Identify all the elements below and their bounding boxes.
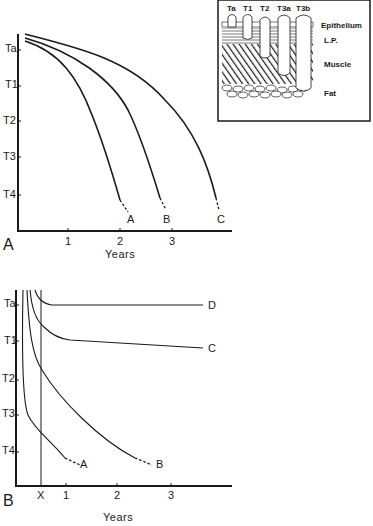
panel-a-y-tick-t1: T1 (5, 78, 18, 90)
inset-stage-t3a: T3a (277, 4, 291, 13)
tumor-t1 (243, 15, 252, 40)
figure: Ta T1 T2 T3 T4 1 2 3 Years A A B C (0, 0, 373, 526)
tumor-ta (228, 15, 236, 28)
panel-b-y-tick-t4: T4 (2, 444, 15, 456)
tumor-t3b (296, 15, 311, 91)
panel-b-label: B (3, 492, 14, 509)
inset-layer-muscle: Muscle (324, 60, 352, 69)
inset-stage-t2: T2 (260, 4, 270, 13)
inset-layer-fat: Fat (324, 89, 336, 98)
panel-a-curve-a (25, 41, 120, 200)
panel-b-curve-label-c: C (208, 342, 216, 354)
inset-stage-t3b: T3b (296, 4, 310, 13)
panel-b-curve-d (35, 290, 203, 305)
panel-a-y-tick-t4: T4 (3, 188, 16, 200)
panel-b-curve-label-b: B (156, 458, 163, 470)
panel-b-curve-label-d: D (208, 299, 216, 311)
panel-b-curve-b (27, 290, 135, 458)
panel-a-y-tick-ta: Ta (5, 42, 18, 54)
panel-a-y-tick-t2: T2 (3, 114, 16, 126)
panel-b-y-tick-ta: Ta (4, 297, 17, 309)
tumor-t3a (278, 15, 290, 76)
panel-b-curve-label-a: A (80, 458, 88, 470)
tumor-stage-inset: Ta T1 T2 T3a T3b Epithelium L.P. Muscle … (218, 0, 370, 121)
inset-layer-lp: L.P. (324, 36, 338, 45)
panel-b-x-axis-title: Years (103, 511, 133, 523)
inset-stage-t1: T1 (243, 4, 253, 13)
panel-a-x-tick-1: 1 (65, 235, 71, 247)
panel-b-curve-c (30, 290, 203, 348)
panel-b-axes (16, 290, 232, 486)
panel-b-x-tick-2: 2 (114, 489, 120, 501)
inset-stage-ta: Ta (227, 4, 236, 13)
panel-a-x-axis-title: Years (105, 248, 135, 260)
panel-b-x-tick-1: 1 (63, 489, 69, 501)
panel-a-curve-label-b: B (163, 213, 170, 225)
panel-a-axes (18, 34, 232, 231)
panel-b-y-tick-t3: T3 (2, 407, 15, 419)
panel-a-curve-label-c: C (217, 213, 225, 225)
panel-b-x-tick-x: X (37, 489, 45, 501)
panel-a-x-tick-2: 2 (117, 235, 123, 247)
panel-b-y-tick-t2: T2 (2, 372, 15, 384)
panel-a-x-tick-3: 3 (169, 235, 175, 247)
panel-b-y-tick-t1: T1 (4, 334, 17, 346)
panel-a-label: A (3, 236, 14, 253)
panel-a-curve-c (25, 34, 216, 198)
panel-b-x-tick-3: 3 (168, 489, 174, 501)
panel-b-chart: Ta T1 T2 T3 T4 X 1 2 3 Years B A B C D (2, 290, 232, 523)
inset-layer-epithelium: Epithelium (321, 21, 362, 30)
panel-a-y-tick-t3: T3 (3, 150, 16, 162)
panel-a-chart: Ta T1 T2 T3 T4 1 2 3 Years A A B C (3, 34, 232, 260)
panel-a-curve-label-a: A (127, 213, 135, 225)
tumor-t2 (260, 17, 270, 58)
